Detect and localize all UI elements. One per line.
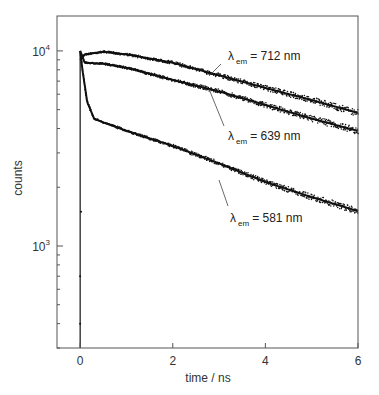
x-tick-label: 4 bbox=[262, 354, 269, 368]
annotation-leader bbox=[209, 89, 224, 126]
x-tick-label: 2 bbox=[169, 354, 176, 368]
x-axis-label: time / ns bbox=[185, 371, 230, 385]
series-label: λem= 712 nm bbox=[228, 49, 301, 66]
series-2 bbox=[80, 51, 359, 134]
plot-frame bbox=[57, 16, 358, 348]
plot-area bbox=[79, 50, 359, 348]
series-label: λem= 581 nm bbox=[230, 211, 303, 228]
x-tick-label: 0 bbox=[77, 354, 84, 368]
annotation-leader bbox=[219, 180, 228, 206]
y-tick-label: 103 bbox=[32, 238, 50, 254]
x-tick-label: 6 bbox=[355, 354, 362, 368]
y-axis-label: counts bbox=[11, 160, 25, 195]
series-label: λem= 639 nm bbox=[228, 129, 301, 146]
y-tick-label: 104 bbox=[32, 43, 50, 59]
series-1 bbox=[80, 50, 359, 115]
x-axis: 0246 bbox=[77, 343, 362, 368]
decay-chart: 0246 103104 time / ns counts λem= 712 nm… bbox=[0, 0, 379, 395]
y-axis: 103104 bbox=[32, 43, 63, 348]
